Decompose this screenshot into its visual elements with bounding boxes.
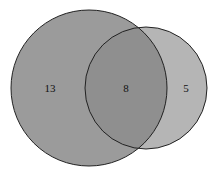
venn-diagram: 13 8 5 [0,0,212,173]
intersection-count: 8 [123,82,129,94]
set-a-only-count: 13 [45,82,57,94]
set-b-only-count: 5 [183,82,189,94]
